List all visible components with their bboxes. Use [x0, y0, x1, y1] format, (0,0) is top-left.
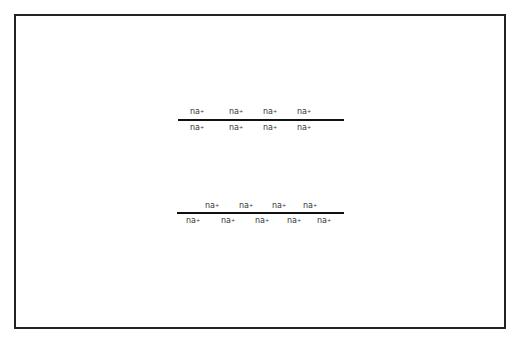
sodium-ion-label: na+	[255, 216, 269, 226]
sodium-ion-label: na+	[229, 107, 243, 117]
sodium-ion-label: na+	[297, 107, 311, 117]
sodium-ion-label: na+	[190, 123, 204, 133]
sodium-ion-label: na+	[190, 107, 204, 117]
sodium-ion-label: na+	[297, 123, 311, 133]
sodium-ion-label: na+	[317, 216, 331, 226]
sodium-ion-label: na+	[229, 123, 243, 133]
sodium-ion-label: na+	[205, 201, 219, 211]
sodium-ion-label: na+	[263, 123, 277, 133]
membrane-line-2	[177, 212, 344, 214]
sodium-ion-label: na+	[303, 201, 317, 211]
sodium-ion-label: na+	[287, 216, 301, 226]
membrane-line-1	[178, 119, 344, 121]
sodium-ion-label: na+	[186, 216, 200, 226]
sodium-ion-label: na+	[221, 216, 235, 226]
sodium-ion-label: na+	[263, 107, 277, 117]
diagram-frame	[14, 14, 506, 329]
sodium-ion-label: na+	[239, 201, 253, 211]
sodium-ion-label: na+	[272, 201, 286, 211]
